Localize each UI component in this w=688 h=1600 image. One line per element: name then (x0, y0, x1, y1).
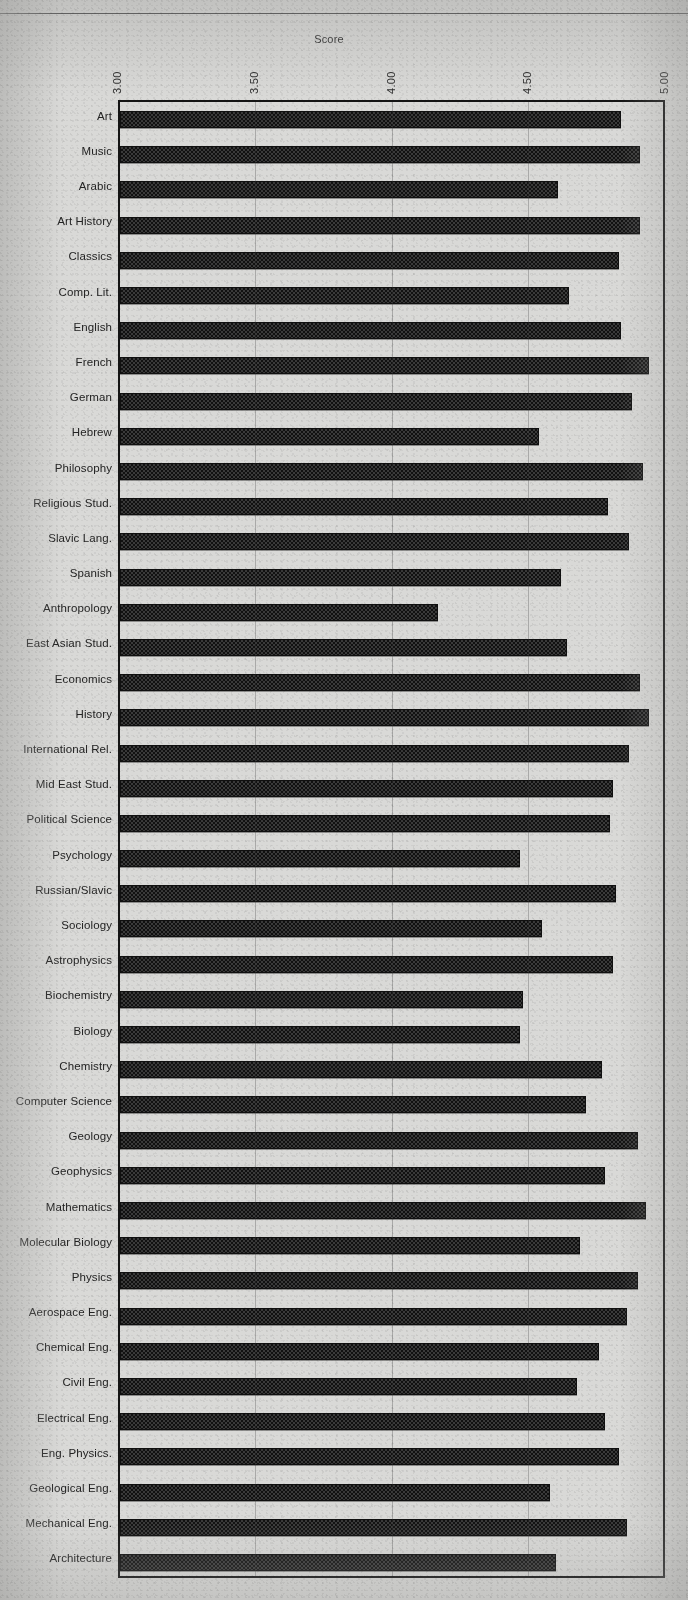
bar (120, 1519, 627, 1536)
y-axis-category-label: Electrical Eng. (0, 1412, 112, 1424)
x-axis-tick-label: 4.50 (521, 71, 533, 94)
x-axis-tick-label: 3.00 (111, 71, 123, 94)
y-axis-category-label: Russian/Slavic (0, 884, 112, 896)
y-axis-category-label: Comp. Lit. (0, 286, 112, 298)
bar (120, 287, 569, 304)
bar (120, 1484, 550, 1501)
bar (120, 111, 621, 128)
y-axis-category-label: Art History (0, 215, 112, 227)
bar (120, 1096, 586, 1113)
bar (120, 252, 619, 269)
plot-area (118, 100, 665, 1578)
bar (120, 920, 542, 937)
bar (120, 428, 539, 445)
bar (120, 1413, 605, 1430)
bar (120, 709, 649, 726)
bar (120, 1237, 580, 1254)
y-axis-category-label: Sociology (0, 919, 112, 931)
y-axis-category-label: Computer Science (0, 1095, 112, 1107)
y-axis-category-label: Anthropology (0, 602, 112, 614)
bar (120, 1308, 627, 1325)
bar (120, 357, 649, 374)
y-axis-category-label: Civil Eng. (0, 1376, 112, 1388)
y-axis-category-label: English (0, 321, 112, 333)
bar (120, 850, 520, 867)
bar (120, 1448, 619, 1465)
bar (120, 1026, 520, 1043)
bar (120, 1378, 577, 1395)
y-axis-category-label: Mathematics (0, 1201, 112, 1213)
y-axis-category-label: Political Science (0, 813, 112, 825)
bar (120, 181, 558, 198)
bar (120, 885, 616, 902)
bar (120, 956, 613, 973)
y-axis-category-label: Hebrew (0, 426, 112, 438)
bar (120, 1132, 638, 1149)
y-axis-category-label: Biology (0, 1025, 112, 1037)
y-axis-category-label: Spanish (0, 567, 112, 579)
x-gridline (392, 102, 393, 1576)
y-axis-category-label: East Asian Stud. (0, 637, 112, 649)
y-axis-category-label: Religious Stud. (0, 497, 112, 509)
bar (120, 322, 621, 339)
x-axis-tick-labels: 3.003.504.004.505.00 (0, 0, 688, 100)
y-axis-category-label: Biochemistry (0, 989, 112, 1001)
bar (120, 1202, 646, 1219)
y-axis-category-label: Physics (0, 1271, 112, 1283)
bar (120, 604, 438, 621)
y-axis-category-label: Molecular Biology (0, 1236, 112, 1248)
y-axis-category-label: Classics (0, 250, 112, 262)
y-axis-category-label: Geology (0, 1130, 112, 1142)
y-axis-category-label: Arabic (0, 180, 112, 192)
bar (120, 146, 640, 163)
bar (120, 1554, 556, 1571)
y-axis-category-label: Psychology (0, 849, 112, 861)
bar (120, 569, 561, 586)
x-gridline (528, 102, 529, 1576)
y-axis-category-label: French (0, 356, 112, 368)
bar (120, 674, 640, 691)
y-axis-category-label: Art (0, 110, 112, 122)
y-axis-category-label: Music (0, 145, 112, 157)
y-axis-category-label: Astrophysics (0, 954, 112, 966)
y-axis-category-label: Economics (0, 673, 112, 685)
bar (120, 815, 610, 832)
y-axis-category-label: Geological Eng. (0, 1482, 112, 1494)
bar (120, 991, 523, 1008)
y-axis-category-label: International Rel. (0, 743, 112, 755)
x-axis-tick-label: 5.00 (658, 71, 670, 94)
bar (120, 463, 643, 480)
y-axis-category-label: Eng. Physics. (0, 1447, 112, 1459)
y-axis-category-label: Mechanical Eng. (0, 1517, 112, 1529)
bar (120, 393, 632, 410)
y-axis-category-label: Aerospace Eng. (0, 1306, 112, 1318)
bar (120, 217, 640, 234)
y-axis-category-label: Mid East Stud. (0, 778, 112, 790)
bar (120, 780, 613, 797)
bar (120, 1167, 605, 1184)
y-axis-category-label: Chemical Eng. (0, 1341, 112, 1353)
x-gridline (255, 102, 256, 1576)
y-axis-category-label: Chemistry (0, 1060, 112, 1072)
y-axis-category-label: Philosophy (0, 462, 112, 474)
bar (120, 1272, 638, 1289)
bar (120, 1061, 602, 1078)
y-axis-category-label: Architecture (0, 1552, 112, 1564)
bar (120, 639, 567, 656)
x-axis-tick-label: 4.00 (385, 71, 397, 94)
y-axis-category-label: History (0, 708, 112, 720)
y-axis-category-label: Slavic Lang. (0, 532, 112, 544)
bar (120, 533, 629, 550)
bar (120, 745, 629, 762)
y-axis-category-label: German (0, 391, 112, 403)
y-axis-category-label: Geophysics (0, 1165, 112, 1177)
bar (120, 498, 608, 515)
x-axis-tick-label: 3.50 (248, 71, 260, 94)
